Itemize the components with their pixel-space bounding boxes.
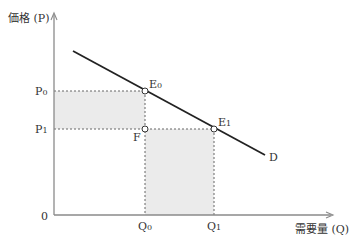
origin-label: 0 — [41, 210, 48, 223]
demand-diagram: 価格 (P) 需要量 (Q) 0 D P0 P1 Q0 Q1 E0 E1 F — [0, 0, 356, 245]
y-axis-label: 価格 (P) — [8, 11, 49, 25]
shaded-region-price — [54, 91, 145, 129]
tick-p1: P1 — [35, 123, 48, 136]
tick-p0: P0 — [35, 85, 48, 98]
tick-q1: Q1 — [207, 220, 221, 233]
point-e0 — [142, 88, 148, 94]
demand-label: D — [269, 151, 278, 164]
shaded-region-quantity — [145, 129, 214, 215]
x-axis-label: 需要量 (Q) — [295, 223, 349, 236]
point-e0-label: E0 — [149, 78, 162, 91]
point-f — [142, 126, 148, 132]
tick-q0: Q0 — [138, 220, 152, 233]
point-e1-label: E1 — [218, 116, 231, 129]
point-e1 — [211, 126, 217, 132]
point-f-label: F — [133, 131, 141, 144]
